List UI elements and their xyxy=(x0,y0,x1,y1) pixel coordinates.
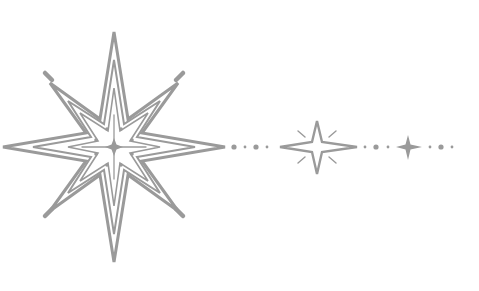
dot-separator-1 xyxy=(231,144,268,149)
dot-separator-2 xyxy=(364,144,390,149)
star-divider-graphic xyxy=(0,0,479,291)
big-star-icon xyxy=(3,32,225,262)
dot-separator-3 xyxy=(429,144,454,149)
small-star-icon xyxy=(396,135,422,160)
medium-star-icon xyxy=(280,121,357,174)
